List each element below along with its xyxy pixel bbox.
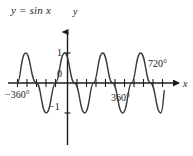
graph-title: y = sin x (11, 5, 51, 16)
y-tick-label-1: 1 (57, 48, 62, 58)
sine-graph-figure: y = sin x y x −360° 360° 720° 1 0 −1 (0, 0, 193, 156)
x-tick-label-720: 720° (148, 59, 167, 69)
y-axis (65, 32, 71, 145)
y-tick-label-neg1: −1 (49, 102, 60, 112)
y-tick-label-0: 0 (57, 69, 62, 79)
x-tick-label-360: 360° (111, 93, 130, 103)
x-tick-label-neg360: −360° (5, 90, 30, 100)
y-axis-label: y (73, 7, 77, 17)
plot-area (0, 0, 193, 156)
x-axis-label: x (183, 79, 187, 89)
